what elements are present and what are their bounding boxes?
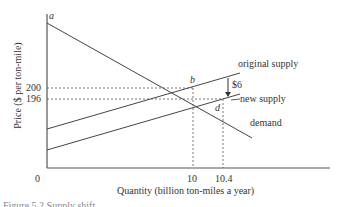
x-tick-0: 0: [35, 173, 40, 184]
x-tick-10: 10: [187, 173, 197, 184]
point-d-label: d: [215, 102, 220, 113]
new-supply-line: [47, 94, 240, 150]
figure-caption: Figure 5.2 Supply shift: [3, 200, 95, 207]
x-axis-label: Quantity (billion ton-miles a year): [117, 185, 254, 196]
shift-label: $6: [232, 79, 242, 90]
demand-label: demand: [250, 117, 282, 128]
chart-canvas: [0, 0, 337, 207]
point-a-label: a: [49, 10, 54, 21]
original-supply-label: original supply: [238, 58, 298, 69]
x-tick-10-4: 10.4: [215, 173, 233, 184]
original-supply-line: [47, 73, 240, 129]
y-tick-196: 196: [26, 93, 41, 104]
y-tick-200: 200: [26, 82, 41, 93]
new-supply-label: new supply: [240, 93, 286, 104]
new-supply-pointer: [231, 99, 240, 100]
point-b-label: b: [190, 74, 195, 85]
arrow-head-icon: [225, 92, 231, 97]
y-axis-label: Price ($ per ton-mile): [12, 31, 23, 141]
